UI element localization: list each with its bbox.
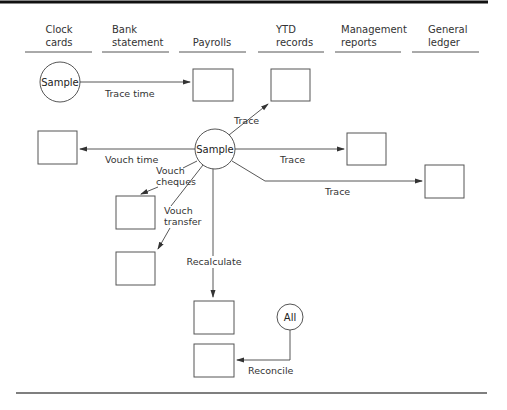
svg-text:Clock: Clock [45,24,72,35]
edge-vouch-transfer-lower [158,228,170,249]
svg-text:Payrolls: Payrolls [193,37,231,48]
edge-trace-general-ledger [232,161,422,181]
svg-text:Management: Management [341,24,407,35]
audit-flow-diagram: Clock cards Bank statement Payrolls YTD … [0,0,507,410]
svg-text:statement: statement [112,37,164,48]
bank-statement-box-cheques [116,196,155,229]
label-trace-time: Trace time [104,88,155,99]
edge-vouch-cheques-upper [183,161,197,168]
clock-cards-box [38,131,77,164]
column-header-bank-statement: Bank statement [102,24,169,52]
svg-text:All: All [284,312,296,323]
edge-reconcile [237,330,290,360]
all-node: All [277,304,303,330]
label-trace-ytd: Trace [233,115,259,126]
payrolls-box-top [193,69,233,101]
column-header-clock-cards: Clock cards [25,24,92,52]
ytd-records-box [271,69,310,101]
label-vouch-transfer-2: transfer [164,216,202,227]
label-trace-general-ledger: Trace [324,186,350,197]
payrolls-box-reconciled [194,344,234,377]
label-trace-management: Trace [279,154,305,165]
svg-text:Sample: Sample [41,77,79,88]
label-vouch-cheques-1: Vouch [156,165,185,176]
svg-text:Sample: Sample [196,144,234,155]
column-header-general-ledger: General ledger [412,24,479,52]
svg-text:Bank: Bank [112,24,137,35]
edge-vouch-cheques-lower [141,187,158,194]
svg-text:YTD: YTD [275,24,296,35]
column-header-payrolls: Payrolls [179,37,246,52]
column-header-ytd-records: YTD records [258,24,324,52]
column-header-management-reports: Management reports [335,24,407,52]
svg-text:records: records [276,37,313,48]
payrolls-box-recalculated [194,301,234,334]
label-vouch-time: Vouch time [105,154,158,165]
management-reports-box [347,133,386,165]
general-ledger-box [425,165,464,198]
svg-text:reports: reports [341,37,377,48]
label-reconcile: Reconcile [248,365,294,376]
svg-text:cards: cards [45,37,72,48]
svg-text:ledger: ledger [428,37,461,48]
svg-text:General: General [428,24,467,35]
sample-node-clock-cards: Sample [40,62,80,102]
label-vouch-transfer-1: Vouch [164,205,193,216]
label-recalculate: Recalculate [187,256,242,267]
bank-statement-box-transfer [116,252,155,285]
